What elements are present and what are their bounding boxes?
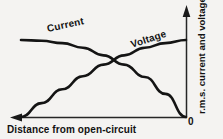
y-axis-title: r.m.s. current and voltage — [196, 4, 210, 114]
voltage-curve — [21, 40, 186, 117]
current-curve — [21, 40, 186, 117]
origin-zero-label: 0 — [188, 116, 194, 127]
y-axis-arrow-icon — [183, 5, 191, 17]
chart-figure: Current Voltage Distance from open-circu… — [0, 0, 223, 139]
x-axis-title: Distance from open-circuit — [7, 124, 136, 135]
